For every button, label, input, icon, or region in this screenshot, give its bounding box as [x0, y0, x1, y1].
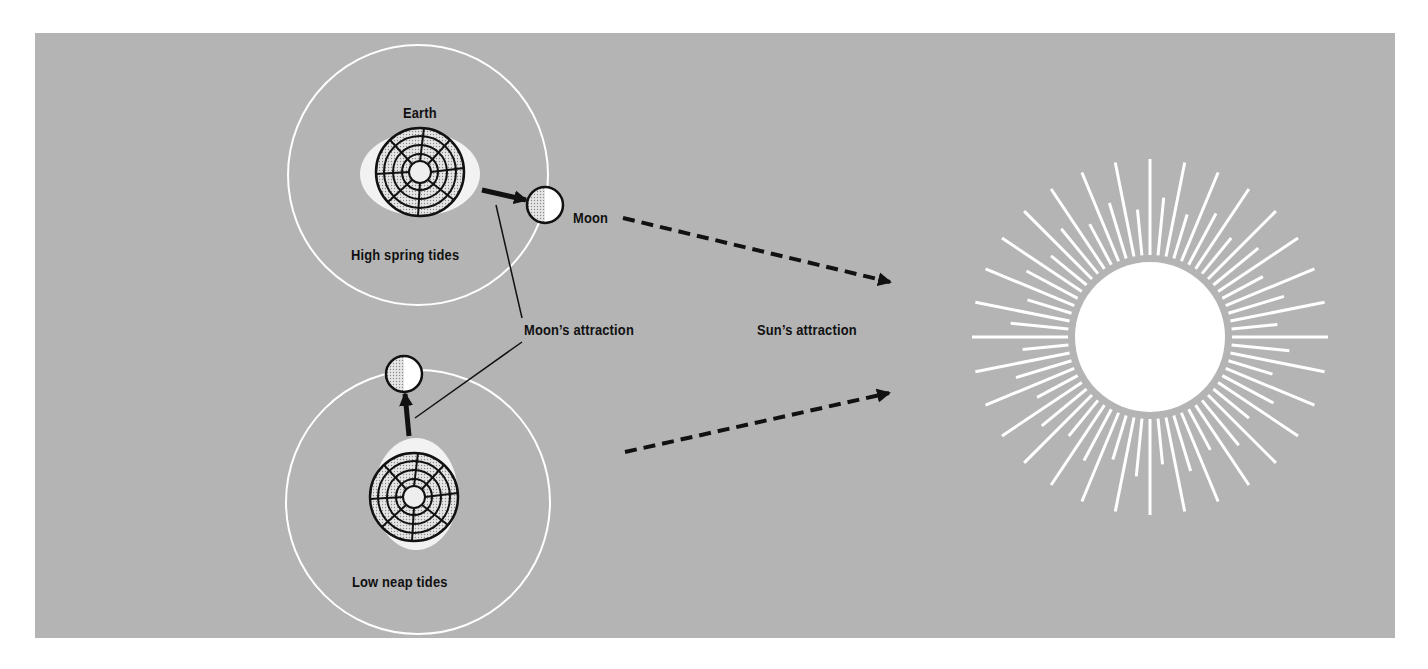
earth-label: Earth [403, 104, 437, 121]
suns-attraction-label: Sun’s attraction [757, 321, 857, 338]
tides-diagram [0, 0, 1428, 669]
earth-globe-icon [360, 128, 480, 216]
arrow-icon [405, 394, 409, 436]
moon-label: Moon [573, 209, 608, 226]
leader-line [496, 205, 522, 318]
dashed-arrow-icon [623, 218, 890, 282]
high-spring-tides-label: High spring tides [351, 246, 459, 263]
sun-icon [972, 159, 1328, 515]
earth-globe-icon [370, 438, 458, 550]
arrow-icon [482, 190, 526, 200]
leader-line [415, 342, 522, 418]
moon-icon [527, 187, 563, 223]
dashed-arrow-icon [625, 393, 889, 452]
moon-icon [386, 356, 422, 392]
low-neap-tides-label: Low neap tides [352, 573, 448, 590]
moons-attraction-label: Moon’s attraction [524, 321, 634, 338]
